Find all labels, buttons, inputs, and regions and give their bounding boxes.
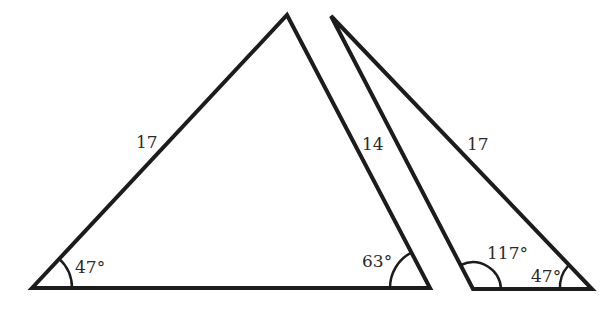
angle-label-47-left: 47°: [75, 257, 105, 277]
angle-label-63: 63°: [362, 251, 392, 271]
side-label-left-17: 17: [136, 132, 158, 152]
angle-arc-left-bottom-right: [390, 253, 411, 289]
angle-arc-left-bottom-left: [59, 259, 72, 288]
side-label-left-14: 14: [362, 134, 384, 154]
angle-label-47-right: 47°: [531, 266, 561, 286]
angle-label-117: 117°: [487, 243, 528, 263]
triangles-diagram: 17 14 47° 63° 17 117° 47°: [0, 0, 616, 314]
side-label-right-17: 17: [467, 134, 489, 154]
angle-arc-right-bottom-right: [560, 266, 568, 289]
